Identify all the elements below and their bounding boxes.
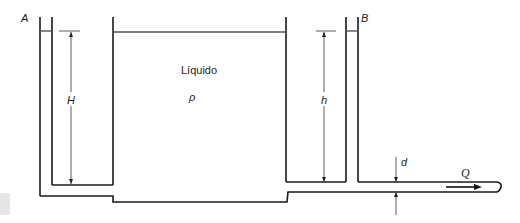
dimension-d: [394, 157, 398, 215]
label-density: ρ: [188, 91, 195, 103]
dimension-h-upper: [59, 31, 80, 184]
label-tube-a: A: [20, 12, 28, 24]
tube-b: [346, 17, 358, 182]
hydraulic-system-diagram: H h d Q A B Líquido ρ: [0, 0, 520, 223]
label-height-b: h: [321, 94, 327, 106]
label-tube-b: B: [361, 12, 368, 24]
tank: [113, 17, 286, 185]
bottom-contour: [40, 192, 497, 202]
label-height-a: H: [67, 94, 75, 106]
flow-arrow: [446, 184, 482, 190]
tube-a: [40, 17, 52, 196]
label-flow: Q: [461, 166, 470, 180]
edge-mark: [0, 193, 10, 215]
label-liquid: Líquido: [181, 64, 217, 76]
dimension-h-lower: [316, 31, 336, 182]
outlet-pipe-end: [497, 182, 501, 192]
label-diameter: d: [401, 156, 408, 168]
